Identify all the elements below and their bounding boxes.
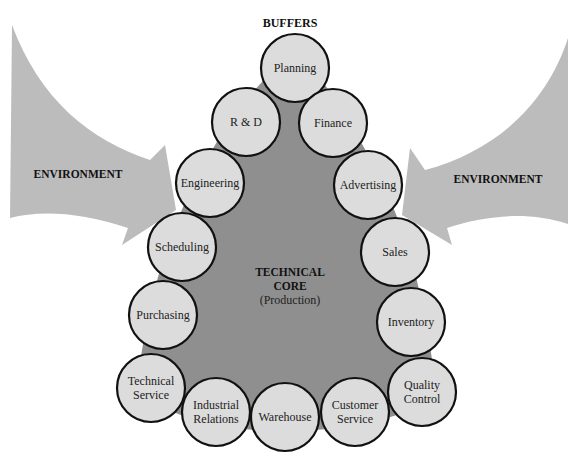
label-customer-service-1: Customer xyxy=(332,398,379,412)
label-engineering: Engineering xyxy=(181,176,240,190)
label-industrial-relations-1: Industrial xyxy=(193,398,240,412)
label-quality-control-1: Quality xyxy=(404,378,440,392)
core-label-line1: TECHNICAL xyxy=(255,266,325,278)
environment-label-left: ENVIRONMENT xyxy=(34,168,123,180)
label-planning: Planning xyxy=(274,61,317,75)
label-advertising: Advertising xyxy=(340,178,397,192)
label-industrial-relations-2: Relations xyxy=(193,412,239,426)
label-r-and-d: R & D xyxy=(230,115,262,129)
label-sales: Sales xyxy=(382,245,408,259)
label-technical-service-2: Service xyxy=(133,388,169,402)
buffers-title: BUFFERS xyxy=(263,16,318,30)
environment-arrow-right xyxy=(402,38,568,245)
label-customer-service-2: Service xyxy=(337,412,373,426)
label-inventory: Inventory xyxy=(388,315,435,329)
label-warehouse: Warehouse xyxy=(258,410,311,424)
core-label-line2: CORE xyxy=(273,280,307,292)
core-label-line3: (Production) xyxy=(260,293,321,307)
label-scheduling: Scheduling xyxy=(155,240,209,254)
label-quality-control-2: Control xyxy=(404,392,441,406)
buffers-diagram: BUFFERS ENVIRONMENT ENVIRONMENT TECHNICA… xyxy=(0,0,580,465)
label-technical-service-1: Technical xyxy=(128,374,175,388)
environment-label-right: ENVIRONMENT xyxy=(454,173,543,185)
environment-arrow-left xyxy=(10,25,176,245)
label-finance: Finance xyxy=(314,116,352,130)
label-purchasing: Purchasing xyxy=(136,308,189,322)
